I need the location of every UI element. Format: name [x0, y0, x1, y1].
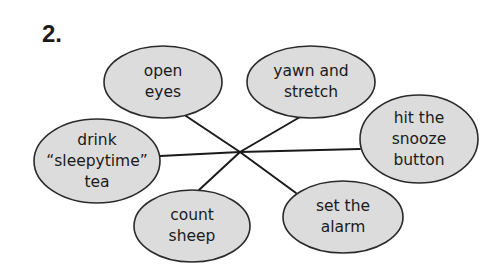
node-yawn-and-stretch: yawn andstretch: [247, 46, 375, 118]
node-ellipse: [104, 46, 222, 118]
node-open-eyes: openeyes: [104, 46, 222, 118]
node-label-line: open: [144, 62, 183, 80]
connector-line-yawn-and-stretch: [240, 117, 300, 152]
node-set-the-alarm: set thealarm: [283, 181, 403, 253]
node-ellipse: [134, 190, 250, 262]
node-ellipse: [283, 181, 403, 253]
node-label-line: set the: [316, 197, 370, 215]
connector-line-count-sheep: [199, 152, 240, 190]
nodes: openeyesyawn andstretchdrink“sleepytime”…: [34, 46, 478, 262]
word-web-diagram: openeyesyawn andstretchdrink“sleepytime”…: [0, 0, 498, 276]
connector-line-drink-sleepytime-tea: [160, 152, 240, 156]
node-label-line: tea: [84, 173, 109, 191]
node-drink-sleepytime-tea: drink“sleepytime”tea: [34, 119, 160, 203]
node-label-line: sheep: [169, 227, 216, 245]
node-label-line: count: [170, 206, 214, 224]
node-label-line: “sleepytime”: [46, 152, 148, 170]
connector-line-open-eyes: [186, 116, 240, 152]
node-label-line: snooze: [392, 130, 447, 148]
node-ellipse: [247, 46, 375, 118]
node-label-line: button: [393, 151, 444, 169]
node-label-line: alarm: [321, 218, 366, 236]
node-hit-the-snooze-button: hit thesnoozebutton: [360, 95, 478, 183]
node-label-line: yawn and: [273, 62, 348, 80]
node-label-line: drink: [77, 131, 116, 149]
node-label-line: eyes: [145, 83, 181, 101]
connector-line-set-the-alarm: [240, 152, 296, 193]
node-label-line: stretch: [284, 83, 338, 101]
node-label-line: hit the: [394, 109, 445, 127]
node-count-sheep: countsheep: [134, 190, 250, 262]
connector-line-hit-the-snooze-button: [240, 149, 360, 152]
